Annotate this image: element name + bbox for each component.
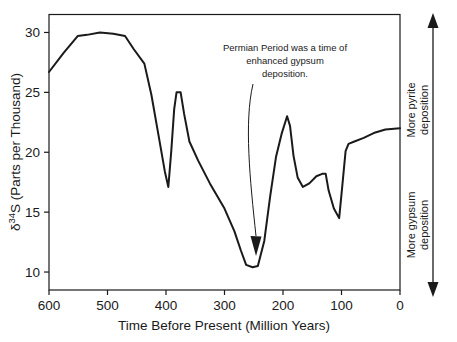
down-arrowhead-icon: [428, 282, 439, 297]
y-axis-tick-labels: 1015202530: [25, 25, 40, 280]
x-axis-tick-labels: 6005004003002001000: [38, 298, 404, 313]
annotation-line-2: enhanced gypsum: [246, 55, 324, 66]
svg-text:δ34S (Parts per Thousand): δ34S (Parts per Thousand): [6, 73, 23, 231]
chart-figure: 1015202530 6005004003002001000 Permian P…: [0, 0, 457, 342]
x-tick-label: 400: [155, 298, 178, 313]
x-tick-label: 200: [272, 298, 295, 313]
x-tick-label: 100: [330, 298, 353, 313]
x-tick-label: 500: [96, 298, 119, 313]
x-axis-ticks: [49, 290, 400, 295]
annotation-line-3: deposition.: [262, 68, 308, 79]
x-tick-label: 300: [213, 298, 236, 313]
y-tick-label: 30: [25, 25, 40, 40]
x-tick-label: 0: [396, 298, 404, 313]
more-gypsum-label-line-2: deposition: [418, 200, 430, 250]
y-tick-label: 10: [25, 265, 40, 280]
x-tick-label: 600: [38, 298, 61, 313]
y-axis-title-delta: δ: [8, 224, 23, 232]
x-axis-title: Time Before Present (Million Years): [118, 318, 330, 333]
more-pyrite-label-line-1: More pyrite: [405, 82, 417, 137]
more-pyrite-label-line-2: deposition: [418, 85, 430, 135]
y-tick-label: 15: [25, 205, 40, 220]
y-tick-label: 20: [25, 145, 40, 160]
annotation-line-1: Permian Period was a time of: [223, 42, 347, 53]
y-tick-label: 25: [25, 85, 40, 100]
deposition-direction-axis: More pyrite deposition More gypsum depos…: [405, 13, 439, 297]
y-axis-title-rest: S (Parts per Thousand): [8, 73, 23, 213]
y-axis-ticks: [44, 32, 49, 272]
plot-area-frame: [49, 15, 400, 291]
up-arrowhead-icon: [428, 13, 439, 28]
y-axis-title: δ34S (Parts per Thousand): [6, 73, 23, 231]
sulfur-isotope-line-chart: 1015202530 6005004003002001000 Permian P…: [0, 0, 457, 342]
more-gypsum-label-line-1: More gypsum: [405, 192, 417, 259]
y-axis-title-superscript: 34: [6, 213, 17, 224]
